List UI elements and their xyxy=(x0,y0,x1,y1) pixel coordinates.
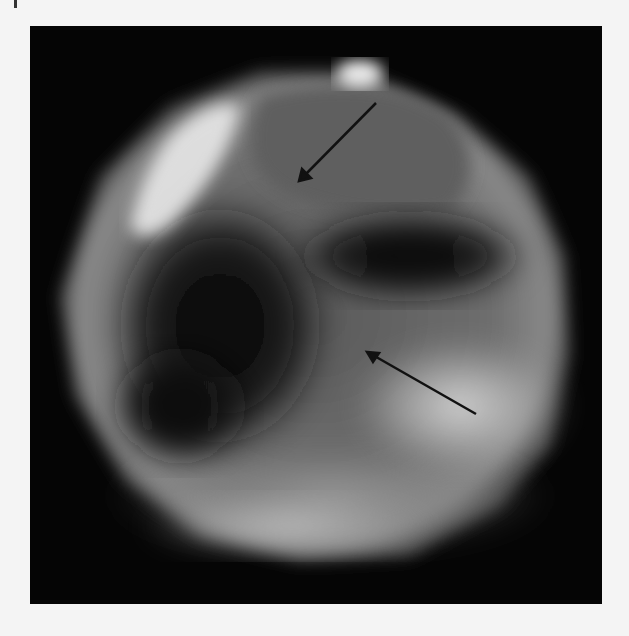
endoscopy-image-frame xyxy=(30,26,602,604)
panel-mark xyxy=(14,0,17,8)
endoscopy-image xyxy=(30,26,602,604)
